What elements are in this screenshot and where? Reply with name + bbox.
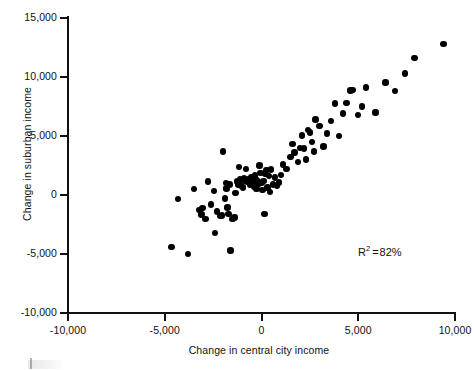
data-point bbox=[236, 164, 242, 170]
data-point bbox=[328, 118, 334, 124]
data-point bbox=[392, 88, 398, 94]
data-point bbox=[289, 141, 295, 147]
data-point bbox=[363, 84, 369, 90]
data-point bbox=[359, 103, 365, 109]
data-point bbox=[278, 172, 284, 178]
r-squared-value: 82% bbox=[380, 246, 402, 258]
data-point bbox=[440, 41, 446, 47]
data-point bbox=[220, 148, 226, 154]
data-point bbox=[267, 189, 273, 195]
y-tick-label: 5,000 bbox=[30, 129, 57, 141]
x-tick-label: 5,000 bbox=[345, 324, 372, 336]
data-point bbox=[301, 145, 307, 151]
data-point bbox=[227, 247, 233, 253]
data-point bbox=[336, 133, 342, 139]
data-point bbox=[211, 188, 217, 194]
y-axis-title: Change in suburban income bbox=[21, 54, 33, 254]
data-point bbox=[320, 143, 326, 149]
data-point bbox=[332, 100, 338, 106]
x-axis-title-text: Change in central city income bbox=[189, 344, 330, 356]
x-tick-label: 0 bbox=[259, 324, 265, 336]
data-point bbox=[295, 159, 301, 165]
data-point bbox=[402, 70, 408, 76]
data-point bbox=[208, 201, 214, 207]
data-point bbox=[343, 100, 349, 106]
y-tick-mark bbox=[60, 76, 68, 78]
data-point bbox=[256, 162, 262, 168]
x-axis-title: Change in central city income bbox=[0, 344, 474, 356]
data-point bbox=[260, 178, 266, 184]
data-point bbox=[309, 139, 315, 145]
scatter-plot-figure: -10,000-5,00005,00010,00015,000 -10,000-… bbox=[0, 0, 474, 370]
data-point bbox=[303, 156, 309, 162]
data-point bbox=[340, 110, 346, 116]
data-point bbox=[372, 109, 378, 115]
data-point bbox=[243, 166, 249, 172]
data-point bbox=[205, 178, 211, 184]
data-point bbox=[231, 214, 237, 220]
data-point bbox=[202, 216, 208, 222]
x-tick-mark bbox=[454, 313, 456, 321]
data-point bbox=[219, 212, 225, 218]
data-point bbox=[185, 251, 191, 257]
data-point bbox=[199, 205, 205, 211]
data-point bbox=[191, 186, 197, 192]
r-squared-symbol: R bbox=[358, 246, 366, 258]
data-point bbox=[261, 211, 267, 217]
y-tick-mark bbox=[60, 194, 68, 196]
y-tick-mark bbox=[60, 135, 68, 137]
scan-artifact bbox=[28, 360, 62, 369]
data-point bbox=[224, 204, 230, 210]
y-tick-label: 15,000 bbox=[24, 11, 57, 23]
y-tick-label: 0 bbox=[51, 188, 57, 200]
y-tick-mark bbox=[60, 17, 68, 19]
data-point bbox=[291, 149, 297, 155]
scan-artifact-tick bbox=[30, 358, 32, 369]
data-point bbox=[307, 129, 313, 135]
data-point bbox=[382, 79, 388, 85]
data-point bbox=[355, 112, 361, 118]
data-point bbox=[222, 195, 228, 201]
data-point bbox=[283, 166, 289, 172]
data-point bbox=[312, 116, 318, 122]
data-point bbox=[268, 166, 274, 172]
x-tick-label: -10,000 bbox=[50, 324, 86, 336]
data-point bbox=[240, 184, 246, 190]
data-point bbox=[168, 244, 174, 250]
data-point bbox=[212, 230, 218, 236]
y-tick-label: -10,000 bbox=[21, 306, 57, 318]
x-tick-label: 10,000 bbox=[439, 324, 472, 336]
r-squared-exponent: 2 bbox=[366, 244, 370, 253]
data-point bbox=[226, 181, 232, 187]
r-squared-annotation: R2=82% bbox=[358, 246, 402, 258]
x-tick-mark bbox=[261, 313, 263, 321]
data-point bbox=[299, 132, 305, 138]
data-point bbox=[311, 148, 317, 154]
x-tick-mark bbox=[67, 313, 69, 321]
data-point bbox=[276, 179, 282, 185]
x-tick-mark bbox=[357, 313, 359, 321]
r-squared-equals: = bbox=[372, 246, 378, 258]
data-point bbox=[175, 196, 181, 202]
data-point bbox=[316, 123, 322, 129]
y-tick-mark bbox=[60, 253, 68, 255]
data-point bbox=[411, 55, 417, 61]
x-tick-mark bbox=[164, 313, 166, 321]
data-point bbox=[324, 130, 330, 136]
plot-data-area bbox=[68, 18, 455, 313]
data-point bbox=[349, 87, 355, 93]
data-point bbox=[232, 190, 238, 196]
x-tick-label: -5,000 bbox=[150, 324, 180, 336]
